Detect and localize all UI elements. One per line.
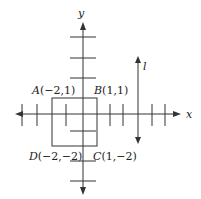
vertex-b-label: B(1,1)	[93, 84, 128, 97]
square-abcd	[52, 98, 97, 146]
x-axis-arrow-left-icon	[15, 111, 23, 117]
line-l-arrow-up-icon	[135, 56, 141, 63]
vertex-c-label: C(1,−2)	[93, 150, 137, 163]
y-axis-label: y	[77, 7, 85, 20]
vertex-d-label: D(−2,−2)	[28, 150, 82, 163]
vertex-a-label: A(−2,1)	[31, 84, 75, 97]
x-axis-label: x	[186, 108, 193, 121]
coordinate-diagram: y x l A(−2,1) B(1,1) D(−2,−2) C(1,−2)	[0, 0, 201, 199]
x-axis-ticks	[22, 104, 165, 126]
line-l-label: l	[143, 60, 147, 73]
y-axis-arrow-up-icon	[80, 22, 86, 30]
x-axis-arrow-right-icon	[173, 111, 181, 117]
y-axis-arrow-down-icon	[80, 187, 86, 195]
line-l-arrow-down-icon	[135, 137, 141, 144]
